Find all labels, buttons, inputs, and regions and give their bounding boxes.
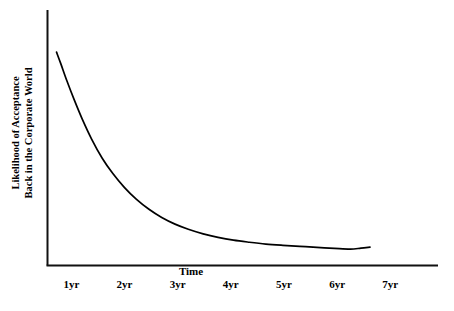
x-tick-label-2yr: 2yr [105, 278, 145, 290]
x-tick-label-1yr: 1yr [51, 278, 91, 290]
x-tick-label-7yr: 7yr [370, 278, 410, 290]
chart-figure: Likelihood of Acceptance Back in the Cor… [0, 0, 454, 311]
x-tick-label-4yr: 4yr [211, 278, 251, 290]
x-tick-label-3yr: 3yr [158, 278, 198, 290]
y-axis-label-line-1: Likelihood of Acceptance [9, 67, 22, 198]
y-axis-label-line-2: Back in the Corporate World [22, 67, 35, 198]
y-axis-label: Likelihood of Acceptance Back in the Cor… [0, 0, 44, 265]
data-series-line [57, 52, 370, 249]
x-tick-label-5yr: 5yr [264, 278, 304, 290]
x-tick-label-6yr: 6yr [317, 278, 357, 290]
chart-plot-area [0, 0, 454, 311]
x-axis-label: Time [160, 265, 222, 277]
